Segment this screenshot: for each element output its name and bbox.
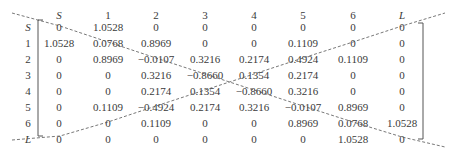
matrix-cell: 0 [202,117,208,129]
matrix-cell: 0 [56,69,62,81]
row-label: 3 [25,69,31,81]
matrix-cell: 0.3216 [141,69,171,81]
matrix-cell: 0 [399,69,405,81]
left-bracket [38,20,43,136]
matrix-cell: 0 [202,133,208,145]
matrix-cell: 0 [399,85,405,97]
matrix-cell: 0 [399,101,405,113]
matrix-cell: 1.0528 [338,133,368,145]
matrix-cell: 0 [202,21,208,33]
matrix-cell: 1.0528 [387,117,417,129]
matrix-cell: 0 [56,101,62,113]
matrix-cell: 0.2174 [141,85,171,97]
matrix-cell: 0.1109 [288,37,318,49]
column-label: L [399,9,405,21]
right-bracket [418,23,423,139]
matrix-cell: 0 [153,21,159,33]
matrix-cell: 0 [56,21,62,33]
matrix-cell: 0.0768 [338,117,368,129]
matrix-cell: 0.2174 [288,69,318,81]
matrix-cell: 0.1109 [141,117,171,129]
matrix-cell: −0.0107 [138,53,174,65]
row-label: 2 [25,53,31,65]
matrix-cell: 0 [399,37,405,49]
matrix-cell: 0 [251,117,257,129]
matrix-cell: 0.3216 [288,85,318,97]
column-label: 5 [300,9,306,21]
column-label: 6 [350,9,356,21]
matrix-cell: 0 [56,53,62,65]
column-label: 3 [202,9,208,21]
matrix-cell: −0.0107 [285,101,321,113]
matrix-cell: −0.8660 [187,69,223,81]
matrix-cell: 0 [350,37,356,49]
row-label: 1 [25,37,31,49]
row-label: S [25,21,31,33]
matrix-cell: 0.8969 [288,117,318,129]
matrix-cell: 0 [251,21,257,33]
matrix-cell: 0 [350,69,356,81]
matrix-cell: −0.4924 [138,101,174,113]
row-label: 5 [25,101,31,113]
matrix-cell: 0.8969 [338,101,368,113]
matrix-decorations [0,0,449,148]
matrix-cell: 0.8969 [141,37,171,49]
matrix-cell: 0.2174 [239,53,269,65]
matrix-cell: 0 [350,85,356,97]
matrix-cell: 0 [350,21,356,33]
row-label: L [25,133,31,145]
matrix-cell: 0 [56,117,62,129]
matrix-cell: 0.1354 [190,85,220,97]
matrix-cell: 0 [399,53,405,65]
matrix-cell: 0 [105,85,111,97]
matrix-cell: 0.1109 [338,53,368,65]
matrix-cell: 0 [105,69,111,81]
column-label: S [56,9,62,21]
column-label: 2 [153,9,159,21]
matrix-cell: 0.1109 [93,101,123,113]
main-diagonal-dashed-line [12,13,445,147]
matrix-cell: 0.3216 [190,53,220,65]
matrix-cell: 0 [56,133,62,145]
matrix-cell: 0.8969 [93,53,123,65]
matrix-cell: 0 [105,133,111,145]
matrix-cell: 0.1354 [239,69,269,81]
matrix-cell: 0 [399,21,405,33]
row-label: 6 [25,117,31,129]
matrix-cell: 0 [56,85,62,97]
anti-diagonal-dashed-line [12,13,445,140]
matrix-cell: 0.4924 [288,53,318,65]
matrix-cell: 0 [153,133,159,145]
matrix-cell: −0.8660 [236,85,272,97]
matrix-cell: 0.0768 [93,37,123,49]
matrix-cell: 0 [300,21,306,33]
matrix-cell: 1.0528 [44,37,74,49]
matrix-cell: 0 [202,37,208,49]
row-label: 4 [25,85,31,97]
matrix-cell: 0.3216 [239,101,269,113]
column-label: 4 [251,9,257,21]
matrix-cell: 0 [300,133,306,145]
column-label: 1 [105,9,111,21]
matrix-cell: 0 [251,133,257,145]
matrix-cell: 0 [105,117,111,129]
matrix-cell: 0 [251,37,257,49]
matrix-cell: 0.2174 [190,101,220,113]
matrix-cell: 0 [399,133,405,145]
matrix-cell: 1.0528 [93,21,123,33]
